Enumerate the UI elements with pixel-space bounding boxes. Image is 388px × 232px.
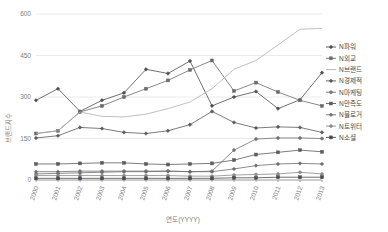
series-group (34, 28, 324, 179)
data-point (166, 129, 170, 133)
data-point (167, 163, 170, 166)
series-line (36, 138, 322, 174)
data-point (254, 126, 258, 130)
data-point (123, 177, 126, 180)
data-point (56, 134, 60, 138)
data-point (329, 79, 333, 83)
legend: N파워N외교N브랜드N경제적N마케팅N만족도N블로거N트위터N소셜 (326, 42, 362, 140)
y-axis-title: 브랜드지수 (4, 113, 13, 143)
series-line (36, 61, 322, 111)
series-6 (35, 149, 324, 166)
data-point (330, 136, 333, 139)
legend-item-7[interactable]: N블로거 (326, 110, 362, 119)
series-line (36, 28, 322, 133)
series-5 (35, 136, 324, 175)
data-point (188, 59, 192, 63)
y-tick-label: 300 (20, 93, 31, 100)
legend-item-9[interactable]: N소셜 (326, 133, 356, 141)
legend-label: N외교 (339, 55, 356, 63)
y-tick-label: 0 (27, 176, 31, 183)
data-point (122, 131, 126, 135)
data-point (78, 126, 82, 130)
legend-item-2[interactable]: N외교 (326, 55, 356, 63)
data-point (255, 176, 258, 179)
legend-item-3[interactable]: N브랜드 (326, 65, 362, 73)
data-point (330, 102, 333, 105)
data-point (189, 177, 192, 180)
data-point (277, 172, 280, 175)
data-point (276, 162, 280, 166)
x-tick-label: 2012 (292, 185, 303, 201)
data-point (232, 95, 236, 99)
data-point (321, 176, 324, 179)
x-tick-label: 2000 (28, 185, 39, 201)
x-tick-label: 2002 (72, 185, 83, 201)
data-point (101, 161, 104, 164)
data-point (233, 176, 236, 179)
chart-canvas: 0150300450600 20002001200220032004200520… (0, 0, 388, 232)
x-tick-label: 2013 (314, 185, 325, 201)
x-tick-label: 2009 (226, 185, 237, 201)
data-point (211, 162, 214, 165)
data-point (299, 136, 302, 139)
data-point (298, 162, 302, 166)
data-point (330, 57, 333, 60)
series-line (36, 111, 322, 138)
data-point (35, 162, 38, 165)
data-point (211, 59, 214, 62)
data-point (100, 127, 104, 131)
line-chart: 0150300450600 20002001200220032004200520… (0, 0, 388, 232)
data-point (189, 162, 192, 165)
data-point (34, 136, 38, 140)
data-point (277, 176, 280, 179)
data-point (100, 99, 104, 103)
x-axis-tick-labels: 2000200120022003200420052006200720082009… (28, 180, 325, 201)
data-point (299, 176, 302, 179)
legend-label: N소셜 (339, 133, 356, 141)
legend-label: N마케팅 (339, 88, 362, 97)
data-point (255, 153, 258, 156)
gridlines (36, 14, 322, 180)
data-point (299, 171, 302, 174)
legend-item-5[interactable]: N마케팅 (326, 88, 362, 97)
legend-item-6[interactable]: N만족도 (326, 99, 362, 108)
legend-label: N만족도 (339, 99, 362, 108)
data-point (166, 169, 170, 173)
data-point (101, 104, 104, 107)
data-point (299, 149, 302, 152)
data-point (167, 79, 170, 82)
data-point (145, 162, 148, 165)
series-3 (36, 28, 322, 133)
data-point (232, 121, 236, 125)
data-point (35, 177, 38, 180)
y-tick-label: 600 (20, 10, 31, 17)
data-point (233, 89, 236, 92)
legend-label: N블로거 (339, 110, 362, 119)
data-point (57, 162, 60, 165)
legend-item-1[interactable]: N파워 (326, 42, 356, 51)
data-point (254, 164, 258, 168)
data-point (320, 131, 324, 135)
data-point (145, 87, 148, 90)
data-point (277, 136, 280, 139)
data-point (321, 150, 324, 153)
data-point (145, 177, 148, 180)
y-tick-label: 450 (20, 52, 31, 59)
x-tick-label: 2007 (182, 185, 193, 201)
data-point (298, 126, 302, 130)
data-point (123, 161, 126, 164)
data-point (101, 177, 104, 180)
data-point (299, 99, 302, 102)
data-point (79, 162, 82, 165)
data-point (330, 125, 333, 128)
legend-label: N파워 (339, 42, 356, 51)
data-point (329, 45, 333, 49)
legend-item-8[interactable]: N트위터 (326, 122, 362, 131)
data-point (277, 151, 280, 154)
data-point (320, 162, 324, 166)
x-tick-label: 2008 (204, 185, 215, 201)
data-point (79, 177, 82, 180)
x-tick-label: 2011 (270, 185, 281, 201)
legend-item-4[interactable]: N경제적 (326, 76, 362, 85)
data-point (277, 91, 280, 94)
